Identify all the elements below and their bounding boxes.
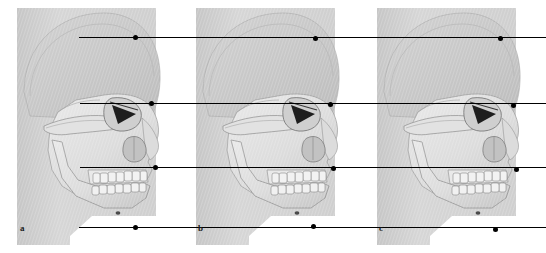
reference-point-a2: [149, 101, 154, 106]
reference-point-c4: [493, 227, 498, 232]
panel-label-b: b: [198, 224, 203, 233]
panel-label-a: a: [20, 224, 25, 233]
subnasal-reference-line: [80, 167, 546, 168]
cephalometric-figure: a b c: [0, 0, 546, 253]
maxilla-upper-teeth-a: [88, 170, 148, 184]
reference-point-c1: [498, 36, 503, 41]
reference-point-b1: [313, 36, 318, 41]
maxilla-upper-teeth-b: [267, 170, 327, 184]
reference-point-b4: [311, 224, 316, 229]
maxilla-upper-teeth-c: [448, 170, 508, 184]
panel-label-c: c: [379, 224, 383, 233]
reference-point-a4: [133, 225, 138, 230]
reference-point-a3: [153, 165, 158, 170]
reference-point-b2: [328, 102, 333, 107]
reference-point-b3: [331, 166, 336, 171]
reference-point-c2: [511, 103, 516, 108]
reference-point-a1: [133, 35, 138, 40]
reference-point-c3: [514, 167, 519, 172]
